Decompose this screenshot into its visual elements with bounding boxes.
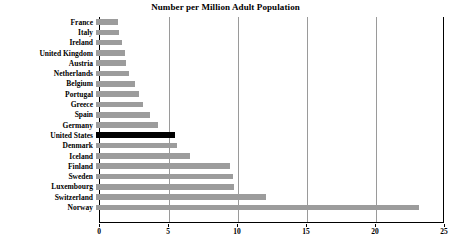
bar-row: Portugal [0,89,451,99]
category-label-italy: Italy [0,28,96,37]
bar-row: United States [0,130,451,140]
bar-track [96,48,451,58]
bar-finland [96,163,230,169]
category-label-france: France [0,18,96,27]
category-label-united-kingdom: United Kingdom [0,49,96,58]
bar-switzerland [96,194,266,200]
bar-track [96,110,451,120]
bar-row: Iceland [0,151,451,161]
bar-greece [96,102,143,108]
bar-row: Belgium [0,79,451,89]
x-tick-label-25: 25 [440,227,448,236]
category-label-united-states: United States [0,131,96,140]
bar-track [96,27,451,37]
bar-italy [96,30,119,36]
bar-norway [96,205,419,211]
bar-track [96,202,451,212]
bar-track [96,38,451,48]
bar-rows: FranceItalyIrelandUnited KingdomAustriaN… [0,17,451,222]
bar-row: Netherlands [0,68,451,78]
x-axis: 0510152025 [0,224,451,238]
bar-portugal [96,91,139,97]
category-label-germany: Germany [0,121,96,130]
bar-row: Sweden [0,171,451,181]
bar-spain [96,112,150,118]
category-label-iceland: Iceland [0,152,96,161]
bar-iceland [96,153,190,159]
bar-denmark [96,143,177,149]
bar-row: Finland [0,161,451,171]
bar-row: Greece [0,99,451,109]
x-tick-label-20: 20 [371,227,379,236]
category-label-denmark: Denmark [0,141,96,150]
bar-row: Ireland [0,38,451,48]
bar-row: Norway [0,202,451,212]
bar-track [96,17,451,27]
bar-track [96,79,451,89]
category-label-luxembourg: Luxembourg [0,182,96,191]
bar-belgium [96,81,135,87]
category-label-greece: Greece [0,100,96,109]
bar-united-states [96,132,175,138]
bar-germany [96,122,158,128]
bar-row: Luxembourg [0,182,451,192]
category-label-ireland: Ireland [0,38,96,47]
bar-row: Switzerland [0,192,451,202]
bar-track [96,141,451,151]
bar-united-kingdom [96,50,125,56]
chart-title: Number per Million Adult Population [0,2,451,12]
category-label-switzerland: Switzerland [0,193,96,202]
bar-ireland [96,40,122,46]
bar-luxembourg [96,184,234,190]
bar-row: Spain [0,110,451,120]
bar-row: Denmark [0,141,451,151]
bar-netherlands [96,71,129,77]
bar-track [96,161,451,171]
bar-row: Austria [0,58,451,68]
x-tick-label-10: 10 [233,227,241,236]
bar-track [96,89,451,99]
bar-row: France [0,17,451,27]
category-label-sweden: Sweden [0,172,96,181]
category-label-portugal: Portugal [0,90,96,99]
category-label-finland: Finland [0,162,96,171]
bar-track [96,68,451,78]
category-label-spain: Spain [0,110,96,119]
bar-row: Germany [0,120,451,130]
bar-austria [96,60,126,66]
bar-row: Italy [0,27,451,37]
category-label-norway: Norway [0,203,96,212]
bar-track [96,182,451,192]
bar-track [96,192,451,202]
bar-track [96,58,451,68]
bar-track [96,151,451,161]
category-label-netherlands: Netherlands [0,69,96,78]
bar-track [96,130,451,140]
bar-sweden [96,174,233,180]
bar-france [96,19,118,25]
x-tick-label-5: 5 [166,227,170,236]
chart-container: Number per Million Adult Population Fran… [0,0,451,239]
x-tick-label-15: 15 [302,227,310,236]
category-label-austria: Austria [0,59,96,68]
x-tick-label-0: 0 [97,227,101,236]
bar-track [96,99,451,109]
bar-row: United Kingdom [0,48,451,58]
bar-track [96,171,451,181]
category-label-belgium: Belgium [0,79,96,88]
bar-track [96,120,451,130]
